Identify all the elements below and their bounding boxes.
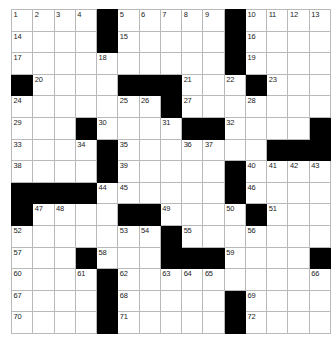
crossword-cell[interactable] xyxy=(182,312,203,334)
crossword-cell[interactable] xyxy=(245,247,266,269)
crossword-cell[interactable] xyxy=(139,182,160,204)
crossword-cell[interactable]: 63 xyxy=(160,269,181,291)
crossword-cell[interactable]: 62 xyxy=(118,269,139,291)
crossword-cell[interactable] xyxy=(33,269,54,291)
crossword-cell[interactable]: 56 xyxy=(245,225,266,247)
crossword-cell[interactable]: 4 xyxy=(75,10,96,32)
crossword-cell[interactable] xyxy=(309,204,330,226)
crossword-cell[interactable] xyxy=(75,312,96,334)
crossword-cell[interactable] xyxy=(267,117,288,139)
crossword-cell[interactable] xyxy=(139,53,160,75)
crossword-cell[interactable]: 66 xyxy=(309,269,330,291)
crossword-cell[interactable] xyxy=(160,182,181,204)
crossword-cell[interactable]: 33 xyxy=(12,139,33,161)
crossword-cell[interactable] xyxy=(139,247,160,269)
crossword-cell[interactable]: 64 xyxy=(182,269,203,291)
crossword-cell[interactable]: 43 xyxy=(309,161,330,183)
crossword-cell[interactable] xyxy=(267,96,288,118)
crossword-cell[interactable] xyxy=(33,161,54,183)
crossword-cell[interactable]: 49 xyxy=(160,204,181,226)
crossword-cell[interactable]: 13 xyxy=(309,10,330,32)
crossword-cell[interactable]: 38 xyxy=(12,161,33,183)
crossword-cell[interactable] xyxy=(33,139,54,161)
crossword-cell[interactable] xyxy=(203,225,224,247)
crossword-cell[interactable] xyxy=(267,182,288,204)
crossword-cell[interactable]: 48 xyxy=(54,204,75,226)
crossword-cell[interactable] xyxy=(182,53,203,75)
crossword-cell[interactable]: 15 xyxy=(118,31,139,53)
crossword-cell[interactable] xyxy=(245,269,266,291)
crossword-cell[interactable]: 19 xyxy=(245,53,266,75)
crossword-cell[interactable] xyxy=(267,31,288,53)
crossword-cell[interactable] xyxy=(97,225,118,247)
crossword-cell[interactable]: 18 xyxy=(97,53,118,75)
crossword-cell[interactable]: 32 xyxy=(224,117,245,139)
crossword-cell[interactable] xyxy=(245,139,266,161)
crossword-cell[interactable] xyxy=(182,290,203,312)
crossword-cell[interactable] xyxy=(267,225,288,247)
crossword-cell[interactable]: 25 xyxy=(118,96,139,118)
crossword-cell[interactable] xyxy=(54,31,75,53)
crossword-cell[interactable]: 24 xyxy=(12,96,33,118)
crossword-cell[interactable] xyxy=(97,96,118,118)
crossword-cell[interactable] xyxy=(288,290,309,312)
crossword-cell[interactable] xyxy=(203,182,224,204)
crossword-cell[interactable] xyxy=(75,96,96,118)
crossword-cell[interactable]: 47 xyxy=(33,204,54,226)
crossword-cell[interactable] xyxy=(309,312,330,334)
crossword-cell[interactable]: 6 xyxy=(139,10,160,32)
crossword-cell[interactable]: 7 xyxy=(160,10,181,32)
crossword-cell[interactable]: 51 xyxy=(267,204,288,226)
crossword-cell[interactable]: 5 xyxy=(118,10,139,32)
crossword-cell[interactable] xyxy=(33,117,54,139)
crossword-cell[interactable] xyxy=(118,53,139,75)
crossword-cell[interactable] xyxy=(224,269,245,291)
crossword-cell[interactable]: 52 xyxy=(12,225,33,247)
crossword-cell[interactable] xyxy=(288,225,309,247)
crossword-cell[interactable]: 14 xyxy=(12,31,33,53)
crossword-cell[interactable]: 57 xyxy=(12,247,33,269)
crossword-cell[interactable]: 53 xyxy=(118,225,139,247)
crossword-cell[interactable]: 69 xyxy=(245,290,266,312)
crossword-cell[interactable]: 17 xyxy=(12,53,33,75)
crossword-cell[interactable] xyxy=(203,96,224,118)
crossword-cell[interactable]: 8 xyxy=(182,10,203,32)
crossword-cell[interactable]: 42 xyxy=(288,161,309,183)
crossword-cell[interactable] xyxy=(288,117,309,139)
crossword-cell[interactable]: 59 xyxy=(224,247,245,269)
crossword-cell[interactable] xyxy=(75,204,96,226)
crossword-cell[interactable]: 1 xyxy=(12,10,33,32)
crossword-cell[interactable] xyxy=(54,96,75,118)
crossword-cell[interactable] xyxy=(54,74,75,96)
crossword-cell[interactable]: 20 xyxy=(33,74,54,96)
crossword-cell[interactable] xyxy=(309,31,330,53)
crossword-cell[interactable] xyxy=(309,225,330,247)
crossword-cell[interactable]: 72 xyxy=(245,312,266,334)
crossword-table[interactable]: 1234567891011121314151617181920212223242… xyxy=(11,9,331,334)
crossword-cell[interactable] xyxy=(288,53,309,75)
crossword-cell[interactable] xyxy=(118,117,139,139)
crossword-cell[interactable] xyxy=(267,269,288,291)
crossword-cell[interactable]: 61 xyxy=(75,269,96,291)
crossword-cell[interactable] xyxy=(75,53,96,75)
crossword-cell[interactable] xyxy=(203,53,224,75)
crossword-cell[interactable]: 50 xyxy=(224,204,245,226)
crossword-cell[interactable] xyxy=(182,31,203,53)
crossword-cell[interactable] xyxy=(97,204,118,226)
crossword-cell[interactable] xyxy=(54,117,75,139)
crossword-cell[interactable]: 70 xyxy=(12,312,33,334)
crossword-cell[interactable]: 22 xyxy=(224,74,245,96)
crossword-cell[interactable]: 55 xyxy=(182,225,203,247)
crossword-cell[interactable] xyxy=(33,247,54,269)
crossword-cell[interactable] xyxy=(54,225,75,247)
crossword-cell[interactable] xyxy=(288,269,309,291)
crossword-cell[interactable] xyxy=(267,290,288,312)
crossword-cell[interactable] xyxy=(309,182,330,204)
crossword-cell[interactable] xyxy=(309,290,330,312)
crossword-cell[interactable] xyxy=(160,312,181,334)
crossword-cell[interactable] xyxy=(54,53,75,75)
crossword-cell[interactable] xyxy=(267,312,288,334)
crossword-cell[interactable]: 9 xyxy=(203,10,224,32)
crossword-cell[interactable] xyxy=(139,139,160,161)
crossword-cell[interactable] xyxy=(203,312,224,334)
